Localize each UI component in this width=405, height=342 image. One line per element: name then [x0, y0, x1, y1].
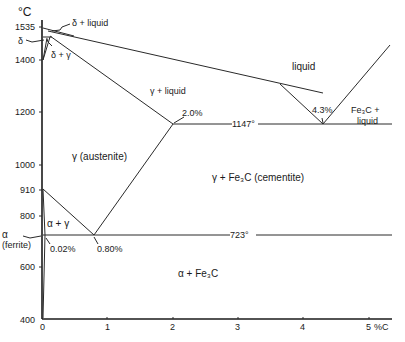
ferrite-solvus-lower [43, 235, 45, 318]
y-tick-1200: 1200 [15, 107, 35, 117]
x-unit-label: %C [374, 322, 389, 332]
ferrite-leader [23, 236, 41, 238]
x-tick-5: 5 [366, 322, 371, 332]
liquidus-to-eutectic [280, 84, 323, 124]
delta-liquid-leader [52, 24, 70, 31]
label-gamma-liquid: γ + liquid [150, 86, 186, 96]
label-cementite-liquid-2: liquid [357, 116, 378, 126]
x-tick-0: 0 [40, 322, 45, 332]
delta-liquidus [43, 28, 74, 36]
label-ferrite-text: (ferrite) [2, 240, 31, 250]
label-delta-gamma: δ + γ [51, 50, 71, 60]
label-pct-0-80: 0.80% [97, 244, 123, 254]
label-delta-liquid: δ + liquid [72, 18, 108, 28]
label-pct-0-02: 0.02% [50, 244, 76, 254]
label-723: 723° [230, 230, 249, 240]
label-alpha-gamma: α + γ [47, 218, 69, 229]
x-tick-3: 3 [235, 322, 240, 332]
label-pct-2-0: 2.0% [182, 108, 203, 118]
pct-0-80-leader [94, 237, 98, 244]
label-pct-4-3: 4.3% [312, 105, 333, 115]
label-delta: δ [18, 36, 23, 46]
acm-line [94, 124, 173, 235]
label-1147: 1147° [232, 119, 255, 129]
label-cementite-liquid-1: Fe₃C + [351, 105, 379, 115]
y-tick-1400: 1400 [15, 55, 35, 65]
y-tick-400: 400 [20, 315, 35, 325]
y-unit-label: °C [18, 5, 32, 19]
label-ferrite-alpha: α [2, 229, 8, 240]
label-liquid: liquid [292, 61, 315, 72]
x-tick-4: 4 [300, 322, 305, 332]
x-tick-2: 2 [170, 322, 175, 332]
y-tick-600: 600 [20, 262, 35, 272]
ferrite-solvus-upper [43, 189, 45, 235]
y-tick-800: 800 [20, 211, 35, 221]
label-gamma-cementite: γ + Fe₃C (cementite) [212, 172, 304, 183]
label-austenite: γ (austenite) [72, 151, 127, 162]
y-tick-910: 910 [20, 185, 35, 195]
y-tick-1000: 1000 [15, 160, 35, 170]
pct-4-3-leader [322, 118, 323, 123]
x-tick-1: 1 [105, 322, 110, 332]
phase-diagram: °C 1535 1400 1200 1000 910 800 600 400 0… [0, 0, 405, 342]
label-alpha-cementite: α + Fe₃C [178, 268, 218, 279]
y-tick-1535: 1535 [15, 22, 35, 32]
liquidus-upper [48, 31, 323, 93]
